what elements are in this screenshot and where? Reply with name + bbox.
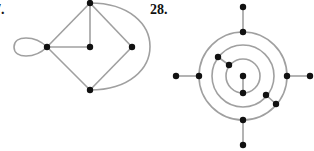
- graph-diagrams: [0, 0, 314, 151]
